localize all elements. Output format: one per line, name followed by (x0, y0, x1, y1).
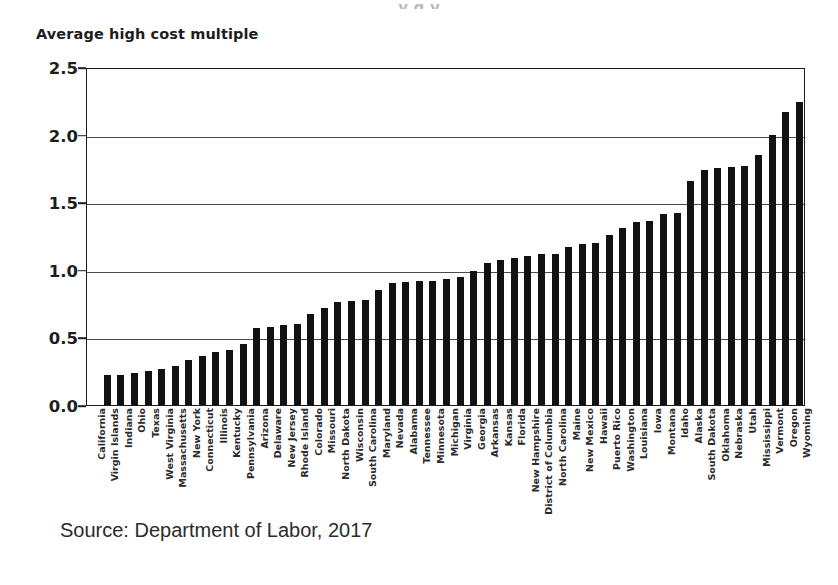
y-axis-tick-label: 0.5 (32, 329, 78, 348)
x-axis-tick-label: Iowa (653, 408, 663, 433)
bar (687, 181, 694, 405)
bar (348, 301, 355, 405)
bar (267, 327, 274, 405)
gridline (87, 272, 804, 273)
x-axis-tick-label: Florida (517, 408, 527, 445)
x-axis-tick-label: South Dakota (707, 408, 717, 481)
bar (497, 260, 504, 405)
x-axis-tick-label: New Mexico (585, 408, 595, 472)
bar (429, 281, 436, 405)
x-axis-tick-label: Alabama (409, 408, 419, 455)
x-axis-tick-label: Utah (748, 408, 758, 433)
bar (538, 254, 545, 405)
x-axis-tick-label: Idaho (680, 408, 690, 438)
bar (443, 279, 450, 405)
x-axis-tick-label: Alaska (694, 408, 704, 443)
x-axis-tick-label: South Carolina (368, 408, 378, 487)
y-axis-tick-mark (78, 67, 86, 69)
bar (714, 168, 721, 405)
x-axis-tick-label: Virginia (463, 408, 473, 450)
x-axis-tick-label: Hawaii (599, 408, 609, 444)
bar (212, 352, 219, 405)
x-axis-tick-label: Puerto Rico (612, 408, 622, 470)
x-axis-tick-label: Nevada (395, 408, 405, 448)
x-axis-tick-label: Rhode Island (300, 408, 310, 478)
bar (565, 247, 572, 405)
x-axis-tick-label: Kentucky (232, 408, 242, 458)
bar (579, 244, 586, 405)
y-axis-tick-label: 1.5 (32, 194, 78, 213)
x-axis-tick-label: Virgin Islands (110, 408, 120, 481)
bar (172, 366, 179, 405)
bar (145, 371, 152, 405)
bar (226, 350, 233, 405)
bar (185, 360, 192, 405)
x-axis-tick-label: Connecticut (205, 408, 215, 472)
bar (728, 167, 735, 405)
y-axis-tick-mark (78, 405, 86, 407)
x-axis-tick-label: Mississippi (762, 408, 772, 467)
x-axis-tick-label: Montana (667, 408, 677, 455)
x-axis-tick-label: Michigan (450, 408, 460, 456)
x-axis-tick-label: District of Columbia (544, 408, 554, 515)
bar (470, 271, 477, 405)
x-axis-tick-label: Tennessee (422, 408, 432, 464)
x-axis-tick-label: New Jersey (287, 408, 297, 467)
cropped-title-fragment: y g y (0, 0, 838, 9)
y-axis-tick-marks (78, 68, 86, 406)
bar (280, 325, 287, 405)
y-axis-tick-label: 1.0 (32, 261, 78, 280)
x-axis-tick-label: Texas (151, 408, 161, 438)
bar (646, 221, 653, 405)
x-axis-tick-label: Wisconsin (355, 408, 365, 462)
bar (294, 324, 301, 405)
bar (552, 254, 559, 405)
bar (307, 314, 314, 405)
source-caption: Source: Department of Labor, 2017 (60, 519, 372, 542)
y-axis-tick-labels: 0.00.51.01.52.02.5 (20, 68, 78, 406)
x-axis-tick-label: Illinois (219, 408, 229, 444)
x-axis-tick-label: Maryland (382, 408, 392, 458)
x-axis-tick-label: Oregon (789, 408, 799, 447)
bar (117, 375, 124, 405)
x-axis-tick-labels: CaliforniaVirgin IslandsIndianaOhioTexas… (86, 408, 805, 520)
chart-page: y g y Average high cost multiple 0.00.51… (0, 0, 838, 585)
x-axis-tick-label: North Dakota (341, 408, 351, 480)
x-axis-tick-label: Minnesota (436, 408, 446, 464)
x-axis-tick-label: Massachusetts (178, 408, 188, 488)
y-axis-tick-mark (78, 202, 86, 204)
bar (334, 302, 341, 405)
bar (796, 102, 803, 405)
bar (375, 290, 382, 405)
x-axis-tick-label: Washington (626, 408, 636, 472)
x-axis-tick-label: Louisiana (639, 408, 649, 459)
x-axis-tick-label: Nebraska (734, 408, 744, 459)
bar (674, 213, 681, 405)
bar (416, 281, 423, 405)
bar (402, 282, 409, 405)
x-axis-tick-label: Ohio (137, 408, 147, 433)
x-axis-tick-label: Arizona (260, 408, 270, 449)
bar (389, 283, 396, 405)
x-axis-tick-label: Vermont (775, 408, 785, 454)
bar (633, 222, 640, 405)
x-axis-tick-label: New Hampshire (531, 408, 541, 492)
bar (240, 344, 247, 405)
x-axis-tick-label: Pennsylvania (246, 408, 256, 479)
bar (484, 263, 491, 405)
bar (321, 308, 328, 405)
y-axis-tick-mark (78, 270, 86, 272)
x-axis-tick-label: Wyoming (802, 408, 812, 458)
x-axis-tick-label: Indiana (124, 408, 134, 448)
bar (619, 228, 626, 405)
y-axis-title: Average high cost multiple (36, 26, 259, 42)
bar (701, 170, 708, 405)
bar (524, 256, 531, 405)
x-axis-tick-label: Delaware (273, 408, 283, 458)
y-axis-tick-label: 0.0 (32, 397, 78, 416)
bar (511, 258, 518, 405)
bar (606, 235, 613, 405)
bar (131, 373, 138, 405)
bar (362, 300, 369, 405)
plot-area (86, 68, 805, 406)
